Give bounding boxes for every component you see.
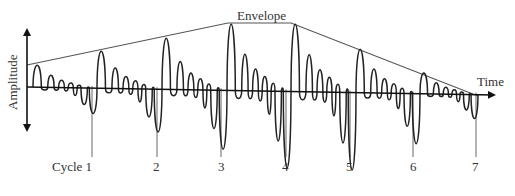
cycle-label: 3 bbox=[218, 160, 225, 173]
envelope-label: Envelope bbox=[237, 9, 286, 22]
time-label: Time bbox=[477, 75, 504, 88]
amplitude-label: Amplitude bbox=[6, 54, 19, 110]
cycle-label: 2 bbox=[153, 160, 160, 173]
waveform-diagram: Envelope Amplitude Time Cycle 1234567 bbox=[0, 0, 515, 196]
cycle-label: Cycle 1 bbox=[52, 160, 92, 173]
cycle-label: 7 bbox=[472, 160, 479, 173]
cycle-label: 4 bbox=[282, 160, 289, 173]
waveform-curve bbox=[33, 24, 478, 170]
cycle-label: 5 bbox=[346, 160, 353, 173]
cycle-label: 6 bbox=[410, 160, 417, 173]
